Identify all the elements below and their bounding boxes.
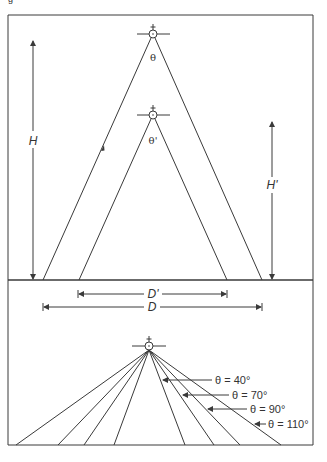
outer-beam-cone [43,38,262,280]
inner-light-source-icon [137,105,170,119]
svg-text:θ = 90°: θ = 90° [250,403,285,415]
svg-text:θ = 110°: θ = 110° [268,418,309,430]
svg-text:θ = 70°: θ = 70° [232,389,267,401]
svg-text:θ = 40°: θ = 40° [215,374,250,386]
width-d-prime-label: D' [148,287,160,301]
caption-fragment: g [8,0,13,4]
outer-angle-label: θ [150,52,156,63]
beam-angle-diagram: g θ θ' H [0,0,327,462]
beam-label-40: θ = 40° [163,374,250,386]
height-h-label: H [29,134,38,148]
outer-light-source-icon [137,24,170,38]
fan-light-source-icon [132,336,166,350]
width-d-label: D [148,300,157,314]
beam-label-110: θ = 110° [255,418,309,430]
height-h-prime-label: H' [267,178,279,192]
beam-label-90: θ = 90° [208,403,285,415]
inner-angle-label: θ' [149,135,158,146]
